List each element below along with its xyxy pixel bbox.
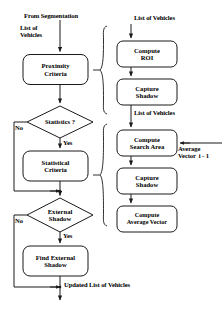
node-compute-search-area xyxy=(117,130,177,156)
node-proximity-criteria xyxy=(23,55,88,85)
node-statistics-decision xyxy=(27,106,93,138)
label-average-vector-prev: AverageVector i - 1 xyxy=(178,145,209,159)
node-find-external-shadow xyxy=(23,246,88,276)
label-no-external: No xyxy=(15,217,23,224)
label-list-of-vehicles-mid-right: List of Vehicles xyxy=(134,109,175,116)
node-external-shadow-decision xyxy=(27,198,93,232)
label-no-statistics: No xyxy=(15,124,23,131)
label-from-segmentation: From Segmentation xyxy=(24,12,78,19)
node-compute-average-vector xyxy=(117,206,177,232)
label-list-of-vehicles-top-right: List of Vehicles xyxy=(134,14,175,21)
flowchart-diagram: From Segmentation List ofVehicles List o… xyxy=(0,0,224,314)
junction-dot-191 xyxy=(59,190,62,193)
node-capture-shadow-1 xyxy=(117,79,177,105)
label-yes-external: Yes xyxy=(63,232,72,239)
node-statistical-criteria xyxy=(23,151,88,181)
node-compute-roi xyxy=(117,41,177,67)
label-list-of-vehicles-left: List ofVehicles xyxy=(20,24,42,38)
label-updated-list-of-vehicles: Updated List of Vehicles xyxy=(64,281,130,288)
brace-group-one xyxy=(100,26,107,114)
node-capture-shadow-2 xyxy=(117,168,177,194)
label-yes-statistics: Yes xyxy=(63,139,72,146)
brace-group-two xyxy=(100,124,107,226)
junction-dot-287 xyxy=(59,286,62,289)
